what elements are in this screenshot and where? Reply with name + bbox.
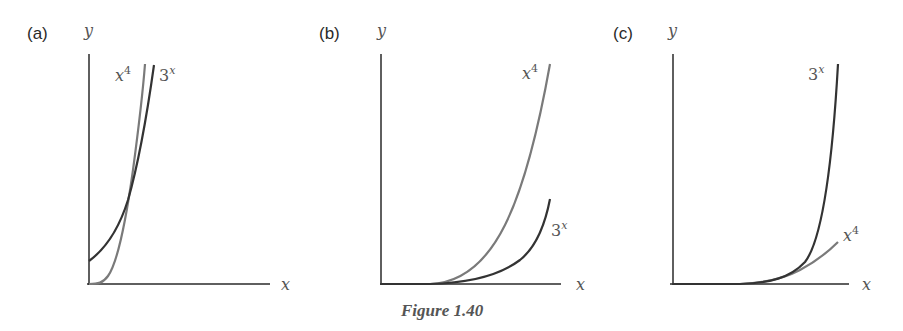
panel-c: (c) y x 3x x4 — [613, 21, 871, 294]
curve-label-x4: x4 — [522, 62, 538, 83]
figure-canvas: (a) y x x4 3x (b) y x x4 3x Figure 1.40 … — [0, 0, 903, 331]
x-axis-label: x — [862, 275, 871, 294]
curve-3x — [381, 199, 550, 284]
y-axis-label: y — [376, 21, 387, 40]
panel-a: (a) y x x4 3x — [27, 21, 290, 294]
curve-label-x4: x4 — [843, 224, 859, 245]
curve-label-3x: 3x — [159, 64, 176, 85]
x-axis-label: x — [281, 275, 290, 294]
curve-label-3x: 3x — [551, 219, 568, 240]
curve-label-3x: 3x — [808, 63, 825, 84]
y-axis-label: y — [667, 21, 678, 40]
panel-b: (b) y x x4 3x Figure 1.40 — [319, 21, 585, 320]
y-axis-label: y — [83, 21, 94, 40]
curve-x4 — [381, 64, 550, 284]
curve-label-x4: x4 — [115, 64, 131, 85]
panel-label: (a) — [27, 24, 48, 43]
curve-x4 — [89, 64, 145, 284]
curve-3x — [673, 64, 838, 284]
panel-label: (c) — [613, 24, 633, 43]
figure-caption: Figure 1.40 — [400, 301, 484, 320]
x-axis-label: x — [576, 275, 585, 294]
panel-label: (b) — [319, 24, 340, 43]
